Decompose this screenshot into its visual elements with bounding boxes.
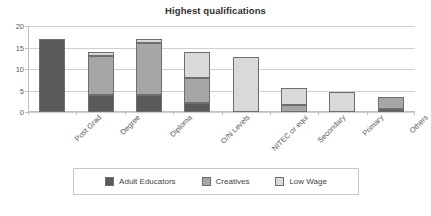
bar-segment[interactable] bbox=[136, 39, 162, 43]
bar-stack[interactable] bbox=[233, 57, 259, 112]
bar-stack[interactable] bbox=[136, 39, 162, 112]
bar-group[interactable] bbox=[173, 26, 221, 112]
bar-group[interactable] bbox=[367, 26, 415, 112]
bar-group[interactable] bbox=[270, 26, 318, 112]
bar-stack[interactable] bbox=[39, 39, 65, 112]
x-axis-category-label: Primary bbox=[361, 113, 386, 138]
legend-item[interactable]: Creatives bbox=[202, 177, 250, 186]
bar-segment[interactable] bbox=[329, 92, 355, 112]
plot-area-wrapper: 05101520 bbox=[28, 26, 415, 112]
x-axis-category-label: Diploma bbox=[168, 113, 194, 139]
x-axis-category-label: NITEC or equi bbox=[270, 113, 310, 153]
bar-segment[interactable] bbox=[378, 109, 404, 112]
y-axis-tick-label: 0 bbox=[20, 108, 24, 117]
legend-item[interactable]: Adult Educators bbox=[105, 177, 175, 186]
legend-label: Low Wage bbox=[289, 177, 327, 186]
bar-group[interactable] bbox=[318, 26, 366, 112]
bar-group[interactable] bbox=[125, 26, 173, 112]
bar-stack[interactable] bbox=[88, 52, 114, 112]
chart-container: Highest qualifications 05101520 Post Gra… bbox=[0, 0, 431, 216]
legend-item[interactable]: Low Wage bbox=[275, 177, 327, 186]
bars-layer bbox=[28, 26, 415, 112]
x-axis-category-label: O/N Levels bbox=[219, 113, 252, 146]
bar-segment[interactable] bbox=[88, 52, 114, 56]
y-axis-tick-label: 10 bbox=[16, 65, 24, 74]
bar-group[interactable] bbox=[28, 26, 76, 112]
bar-segment[interactable] bbox=[378, 97, 404, 109]
plot-area: 05101520 bbox=[28, 26, 415, 112]
bar-stack[interactable] bbox=[329, 92, 355, 112]
chart-legend: Adult EducatorsCreativesLow Wage bbox=[73, 168, 359, 195]
bar-segment[interactable] bbox=[39, 39, 65, 112]
chart-title: Highest qualifications bbox=[0, 5, 431, 16]
bar-group[interactable] bbox=[222, 26, 270, 112]
legend-swatch-icon bbox=[202, 177, 211, 186]
bar-segment[interactable] bbox=[281, 88, 307, 105]
bar-group[interactable] bbox=[76, 26, 124, 112]
x-axis-category-label: Degree bbox=[118, 113, 142, 137]
x-axis-labels: Post GradDegreeDiplomaO/N LevelsNITEC or… bbox=[28, 113, 415, 159]
bar-segment[interactable] bbox=[233, 57, 259, 112]
x-axis-category-label: Post Grad bbox=[73, 113, 103, 143]
bar-stack[interactable] bbox=[378, 97, 404, 112]
legend-label: Adult Educators bbox=[119, 177, 175, 186]
y-axis-tick-label: 5 bbox=[20, 86, 24, 95]
bar-segment[interactable] bbox=[136, 95, 162, 112]
bar-segment[interactable] bbox=[88, 95, 114, 112]
bar-segment[interactable] bbox=[184, 78, 210, 104]
y-axis-tick-label: 20 bbox=[16, 22, 24, 31]
x-axis-category-label: Secondary bbox=[315, 113, 347, 145]
y-axis-tick-label: 15 bbox=[16, 43, 24, 52]
bar-segment[interactable] bbox=[184, 52, 210, 78]
bar-stack[interactable] bbox=[184, 52, 210, 112]
bar-segment[interactable] bbox=[88, 56, 114, 95]
bar-segment[interactable] bbox=[136, 43, 162, 95]
bar-stack[interactable] bbox=[281, 88, 307, 113]
x-axis-category-label: Others bbox=[408, 113, 430, 135]
bar-segment[interactable] bbox=[184, 103, 210, 112]
bar-segment[interactable] bbox=[281, 105, 307, 112]
legend-label: Creatives bbox=[216, 177, 250, 186]
legend-swatch-icon bbox=[275, 177, 284, 186]
legend-swatch-icon bbox=[105, 177, 114, 186]
